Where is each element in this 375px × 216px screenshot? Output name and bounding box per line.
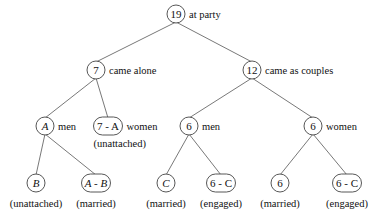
node-couples: 12came as couples — [243, 61, 333, 79]
node-below-label: (engaged) — [326, 198, 368, 210]
node-value: 6 — [186, 120, 192, 132]
edge-root-to-alone — [96, 22, 176, 62]
edge-couples-to-couples-women — [252, 78, 313, 118]
node-side-label: women — [127, 121, 159, 132]
node-below-label: (engaged) — [200, 198, 242, 210]
edge-couples-men-to-cm-engaged — [189, 134, 221, 175]
node-alone-men: Amen — [36, 117, 77, 135]
node-root: 19at party — [167, 5, 222, 23]
edge-root-to-couples — [176, 22, 252, 62]
edge-couples-women-to-cw-engaged — [313, 134, 347, 175]
node-side-label: came alone — [109, 65, 157, 76]
node-value: 6 — [277, 177, 283, 189]
node-below-label: (married) — [260, 198, 300, 210]
node-side-label: at party — [189, 9, 222, 20]
edge-alone-to-alone-men — [45, 78, 96, 118]
node-value: C — [162, 177, 170, 189]
node-value: 7 — [93, 64, 99, 76]
node-below-label: (unattached) — [10, 198, 63, 210]
node-value: 6 — [310, 120, 316, 132]
node-alone-women: 7 - Awomen(unattached) — [94, 117, 159, 150]
nodes-layer: 19at party7came alone12came as couplesAm… — [10, 5, 369, 210]
node-couples-women: 6women — [304, 117, 358, 135]
edge-alone-to-alone-women — [96, 78, 108, 118]
node-side-label: women — [326, 121, 358, 132]
node-alone: 7came alone — [87, 61, 157, 79]
node-men-married: A - B(married) — [76, 174, 116, 210]
node-value: A — [41, 120, 49, 132]
node-value: 12 — [247, 64, 258, 76]
node-cm-married: C(married) — [146, 174, 186, 210]
edge-alone-men-to-men-married — [45, 134, 96, 175]
edge-couples-to-couples-men — [189, 78, 252, 118]
edge-alone-men-to-men-unattached — [36, 134, 45, 175]
edges-layer — [36, 22, 347, 175]
node-cm-engaged: 6 - C(engaged) — [200, 174, 242, 210]
node-men-unattached: B(unattached) — [10, 174, 63, 210]
node-below-label: (married) — [146, 198, 186, 210]
edge-couples-men-to-cm-married — [166, 134, 189, 175]
node-value: 7 - A — [97, 120, 119, 132]
node-value: A - B — [84, 177, 108, 189]
node-below-label: (married) — [76, 198, 116, 210]
node-value: 6 - C — [336, 177, 358, 189]
node-value: 6 - C — [210, 177, 232, 189]
node-side-label: men — [58, 121, 77, 132]
edge-couples-women-to-cw-married — [280, 134, 313, 175]
tree-diagram: 19at party7came alone12came as couplesAm… — [0, 0, 375, 216]
node-side-label: men — [202, 121, 221, 132]
node-couples-men: 6men — [180, 117, 221, 135]
node-side-label: came as couples — [265, 65, 333, 76]
node-cw-married: 6(married) — [260, 174, 300, 210]
node-cw-engaged: 6 - C(engaged) — [326, 174, 368, 210]
node-value: 19 — [171, 8, 183, 20]
node-below-label: (unattached) — [94, 138, 147, 150]
node-value: B — [33, 177, 40, 189]
